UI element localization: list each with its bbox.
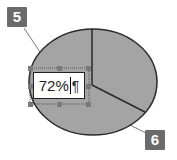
resize-handle-bl[interactable]	[28, 102, 33, 107]
resize-handle-r[interactable]	[86, 84, 91, 89]
screenshot-stage: 72% ¶ 5 6	[0, 0, 177, 160]
callout-badge-6: 6	[145, 130, 165, 150]
paragraph-mark-icon: ¶	[72, 78, 80, 94]
data-label-value: 72%	[39, 77, 69, 94]
resize-handle-tr[interactable]	[86, 66, 91, 71]
resize-handle-br[interactable]	[86, 102, 91, 107]
data-label-textbox[interactable]: 72% ¶	[33, 72, 85, 99]
text-cursor	[70, 77, 71, 94]
resize-handle-tl[interactable]	[28, 66, 33, 71]
resize-handle-t[interactable]	[57, 66, 62, 71]
callout-badge-5: 5	[7, 7, 27, 27]
resize-handle-b[interactable]	[57, 102, 62, 107]
